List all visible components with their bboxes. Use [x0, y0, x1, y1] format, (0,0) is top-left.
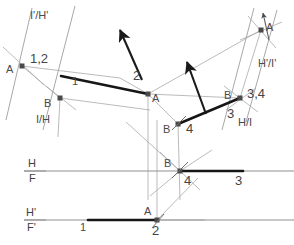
label-edge-2-center: 2 [133, 69, 140, 82]
label-point-b-front: B [164, 158, 171, 169]
point-marker-a-right [259, 28, 264, 33]
label-fold-f: F [29, 173, 36, 184]
geometry-figure: I'/H' 1,2 A B I/H 1 2 A B 4 A H'/I' B 3,… [0, 0, 294, 245]
fold-lines-group [6, 6, 277, 130]
projector-line [180, 150, 212, 171]
label-edge-3-right: 3 [227, 107, 234, 120]
point-marker-a-center [146, 92, 151, 97]
construction-line [22, 66, 60, 98]
label-edge-2-bottom: 2 [152, 224, 159, 237]
label-fold-h-i: H/I [238, 117, 252, 128]
label-edge-4-front: 4 [184, 174, 191, 187]
label-right-pair-3-4: 3,4 [247, 87, 265, 100]
construction-line [22, 66, 120, 78]
label-fold-h-prime-i-prime: H'/I' [258, 58, 276, 69]
projector-line [178, 124, 180, 200]
label-edge-3-front: 3 [235, 174, 242, 187]
label-point-a-bottom: A [144, 206, 151, 217]
label-fold-h-prime: H' [26, 207, 36, 218]
point-marker-a-left [20, 64, 25, 69]
label-edge-1-upper: 1 [72, 76, 78, 87]
tick-b-center [172, 116, 186, 130]
label-point-b-right: B [224, 90, 231, 101]
construction-line [58, 98, 60, 137]
label-fold-i-h: I/H [36, 114, 50, 125]
projector-line [157, 178, 198, 220]
label-point-a-center: A [152, 93, 159, 104]
label-fold-i-prime-h-prime: I'/H' [30, 10, 48, 21]
point-marker-b-right [238, 96, 243, 101]
label-left-pair-1-2: 1,2 [30, 52, 48, 65]
label-edge-4-center: 4 [186, 122, 193, 135]
label-point-b-left: B [44, 98, 51, 109]
label-point-a-left: A [6, 64, 13, 75]
principal-fold-lines-group [24, 171, 294, 220]
point-marker-b-front [178, 169, 183, 174]
point-markers-group [20, 28, 264, 223]
label-fold-f-prime: F' [27, 222, 36, 233]
point-marker-b-left [58, 96, 63, 101]
label-point-b-center: B [163, 124, 170, 135]
label-fold-h: H [28, 158, 36, 169]
right-view-direction-arrow [187, 62, 206, 114]
label-point-a-right: A [266, 22, 273, 33]
label-edge-1-bottom: 1 [80, 222, 86, 233]
